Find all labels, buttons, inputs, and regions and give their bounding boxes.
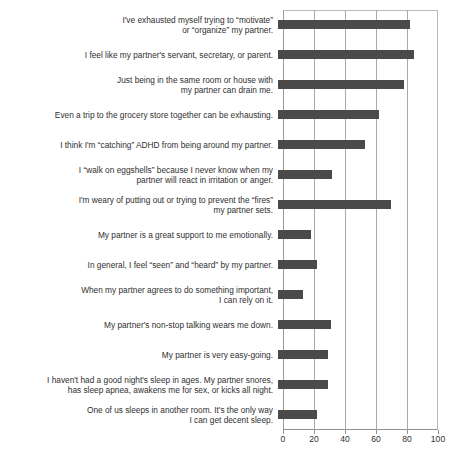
bar-row: When my partner agrees to do something i… xyxy=(0,280,457,310)
bar-track xyxy=(278,220,433,250)
bar-row-label: I haven't had a good night's sleep in ag… xyxy=(0,375,278,396)
bar-row-label: When my partner agrees to do something i… xyxy=(0,285,278,306)
bar xyxy=(278,50,414,59)
bar-row-label: My partner is very easy-going. xyxy=(0,350,278,360)
bar-row-label: Just being in the same room or house wit… xyxy=(0,75,278,96)
x-tick-label-0: 0 xyxy=(281,434,286,444)
bar-track xyxy=(278,10,433,40)
bar xyxy=(278,260,317,269)
bar-row: Just being in the same room or house wit… xyxy=(0,70,457,100)
bar-track xyxy=(278,370,433,400)
bar-track xyxy=(278,160,433,190)
bar-track xyxy=(278,130,433,160)
bar xyxy=(278,80,404,89)
bar-row-label: I've exhausted myself trying to “motivat… xyxy=(0,15,278,36)
bar-row: In general, I feel “seen” and “heard” by… xyxy=(0,250,457,280)
bar-track xyxy=(278,40,433,70)
bar-track xyxy=(278,70,433,100)
horizontal-bar-chart: I've exhausted myself trying to “motivat… xyxy=(0,0,457,461)
bar xyxy=(278,320,331,329)
bar xyxy=(278,350,328,359)
bar-row: Even a trip to the grocery store togethe… xyxy=(0,100,457,130)
bar xyxy=(278,380,328,389)
bar-track xyxy=(278,250,433,280)
x-tick-label-40: 40 xyxy=(340,434,350,444)
bar xyxy=(278,110,379,119)
bar-row-label: Even a trip to the grocery store togethe… xyxy=(0,110,278,120)
bar-track xyxy=(278,280,433,310)
bar xyxy=(278,410,317,419)
bar-row-label: In general, I feel “seen” and “heard” by… xyxy=(0,260,278,270)
bar xyxy=(278,290,303,299)
bar-row: I think I'm “catching” ADHD from being a… xyxy=(0,130,457,160)
x-tick-label-80: 80 xyxy=(402,434,412,444)
bar-track xyxy=(278,190,433,220)
bar-track xyxy=(278,340,433,370)
bar-row: My partner is very easy-going. xyxy=(0,340,457,370)
x-tick-label-20: 20 xyxy=(309,434,319,444)
bar-row-label: My partner's non-stop talking wears me d… xyxy=(0,320,278,330)
bar-row: I feel like my partner's servant, secret… xyxy=(0,40,457,70)
bar-track xyxy=(278,310,433,340)
bar-row: One of us sleeps in another room. It's t… xyxy=(0,400,457,430)
bar-row-label: One of us sleeps in another room. It's t… xyxy=(0,405,278,426)
bar-row: My partner is a great support to me emot… xyxy=(0,220,457,250)
bar xyxy=(278,140,365,149)
bar-row: I've exhausted myself trying to “motivat… xyxy=(0,10,457,40)
bar xyxy=(278,230,311,239)
bar-rows-group: I've exhausted myself trying to “motivat… xyxy=(0,10,457,430)
bar-row-label: I'm weary of putting out or trying to pr… xyxy=(0,195,278,216)
bar-track xyxy=(278,400,433,430)
bar-row-label: My partner is a great support to me emot… xyxy=(0,230,278,240)
bar xyxy=(278,20,410,29)
bar-row-label: I think I'm “catching” ADHD from being a… xyxy=(0,140,278,150)
x-axis: 020406080100 xyxy=(0,430,457,446)
bar xyxy=(278,200,391,209)
bar-row: I haven't had a good night's sleep in ag… xyxy=(0,370,457,400)
bar-row: I'm weary of putting out or trying to pr… xyxy=(0,190,457,220)
x-tick-label-100: 100 xyxy=(431,434,445,444)
bar-row: I “walk on eggshells” because I never kn… xyxy=(0,160,457,190)
bar xyxy=(278,170,332,179)
x-tick-label-60: 60 xyxy=(371,434,381,444)
bar-row: My partner's non-stop talking wears me d… xyxy=(0,310,457,340)
bar-track xyxy=(278,100,433,130)
bar-row-label: I “walk on eggshells” because I never kn… xyxy=(0,165,278,186)
bar-row-label: I feel like my partner's servant, secret… xyxy=(0,50,278,60)
